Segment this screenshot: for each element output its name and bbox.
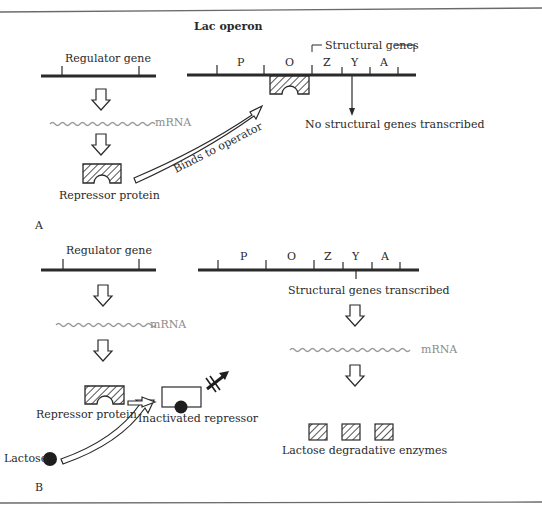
a-regulator-gene-bar	[41, 66, 156, 76]
panel-a-label: A	[35, 220, 43, 231]
b-mrna-left-label: mRNA	[150, 319, 186, 330]
b-mrna-right-label: mRNA	[421, 344, 457, 355]
panel-b-label: B	[35, 482, 43, 493]
b-enzyme-icon-1	[309, 424, 327, 440]
b-down-arrow-icon-4	[346, 365, 364, 386]
b-enzyme-icon-2	[342, 424, 360, 440]
b-repressor-protein-icon	[85, 386, 124, 404]
b-enzyme-icon-3	[375, 424, 393, 440]
a-outcome-label: No structural genes transcribed	[305, 119, 484, 130]
b-segment-y: Y	[352, 251, 359, 262]
b-mrna-wave-right	[290, 349, 410, 352]
diagram-title: Lac operon	[194, 21, 263, 32]
top-rule	[0, 8, 542, 12]
b-lactose-label: Lactose	[4, 453, 47, 464]
b-regulator-gene-label: Regulator gene	[66, 245, 152, 256]
a-regulator-gene-label: Regulator gene	[65, 53, 151, 64]
a-mrna-label: mRNA	[155, 117, 191, 128]
bottom-rule	[0, 502, 542, 503]
b-down-arrow-icon-2	[94, 340, 112, 361]
b-segment-a: A	[381, 251, 389, 262]
b-outcome-label: Structural genes transcribed	[288, 285, 450, 296]
lac-operon-diagram: Lac operon Regulator gene mRNA Repressor…	[0, 0, 542, 511]
b-down-arrow-icon-1	[94, 285, 112, 306]
b-down-arrow-icon-3	[346, 305, 364, 326]
a-segment-o: O	[285, 57, 294, 68]
a-binds-to-operator-arrow-icon	[134, 106, 262, 183]
b-inactivated-repressor-label: Inactivated repressor	[138, 413, 258, 424]
a-repressor-protein-icon	[83, 164, 121, 183]
a-segment-p: P	[237, 57, 244, 68]
a-segment-a: A	[380, 57, 388, 68]
b-segment-o: O	[287, 251, 296, 262]
a-mrna-wave	[50, 123, 155, 126]
a-bound-repressor-icon	[270, 76, 309, 94]
a-segment-y: Y	[351, 57, 358, 68]
a-repressor-protein-label: Repressor protein	[59, 190, 160, 201]
b-segment-z: Z	[324, 251, 332, 262]
b-repressor-protein-label: Repressor protein	[36, 409, 137, 420]
a-segment-z: Z	[323, 57, 331, 68]
a-down-arrow-icon-1	[92, 89, 110, 110]
a-structural-genes-label: Structural genes	[325, 40, 419, 51]
b-segment-p: P	[240, 251, 247, 262]
b-blocked-binding-arrow-icon	[206, 371, 229, 392]
a-down-arrow-icon-2	[92, 134, 110, 155]
a-no-transcription-arrow-icon	[349, 76, 355, 116]
b-mrna-wave-left	[56, 324, 156, 327]
b-enzymes-label: Lactose degradative enzymes	[282, 445, 447, 456]
b-regulator-gene-bar	[41, 259, 156, 270]
